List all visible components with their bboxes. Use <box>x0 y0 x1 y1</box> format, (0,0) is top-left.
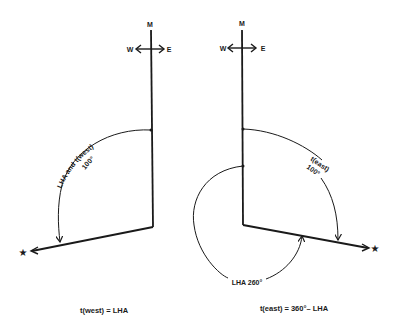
lha-arc-right <box>266 236 302 279</box>
t-east-arc-lower <box>321 178 338 240</box>
west-diagram: M W E ★ LHA and t(west) 100° t(west) = L… <box>19 21 172 315</box>
meridian-line <box>242 30 243 225</box>
star-icon: ★ <box>371 243 380 254</box>
west-caption: t(west) = LHA <box>80 306 129 315</box>
meridian-label: M <box>147 21 153 28</box>
t-east-arc-upper <box>243 129 322 160</box>
star-icon: ★ <box>19 247 28 258</box>
hour-circle-line <box>243 225 368 248</box>
meridian-line <box>151 30 153 227</box>
inner-arc-label: LHA 260° <box>232 279 263 286</box>
meridian-label: M <box>239 20 245 27</box>
hour-angle-diagram: M W E ★ LHA and t(west) 100° t(west) = L… <box>0 0 394 331</box>
lha-arc-left <box>193 166 243 278</box>
west-label: W <box>220 45 227 52</box>
west-label: W <box>127 46 134 53</box>
east-label: E <box>261 45 266 52</box>
east-diagram: M W E ★ t(east) 100° LHA 260° t(east) = … <box>193 20 379 313</box>
east-label: E <box>167 46 172 53</box>
east-caption: t(east) = 360°– LHA <box>260 304 329 313</box>
hour-circle-line <box>32 227 153 251</box>
lha-arc <box>58 130 151 242</box>
